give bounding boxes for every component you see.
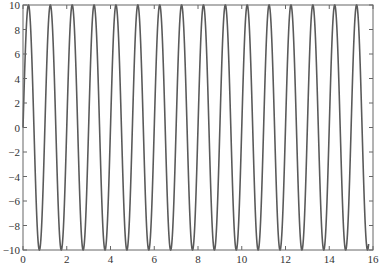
x-tick-label: 4	[108, 253, 114, 265]
line-chart: 0246810121416 −10−8−6−4−20246810	[0, 0, 379, 269]
y-tick-label: −10	[3, 244, 21, 256]
y-tick-label: 10	[9, 0, 21, 11]
x-tick-label: 0	[20, 253, 26, 265]
x-tick-label: 12	[280, 253, 291, 265]
y-tick-label: −6	[8, 195, 20, 207]
y-tick-label: −4	[8, 171, 20, 183]
x-tick-label: 8	[195, 253, 201, 265]
x-tick-label: 6	[152, 253, 158, 265]
x-tick-label: 16	[368, 253, 379, 265]
y-tick-label: 8	[15, 24, 21, 36]
y-tick-label: 6	[15, 48, 21, 60]
y-tick-label: −8	[8, 220, 20, 232]
x-axis-ticks: 0246810121416	[20, 5, 379, 265]
y-tick-label: 0	[15, 122, 21, 134]
x-tick-label: 14	[324, 253, 336, 265]
y-tick-label: −2	[8, 146, 20, 158]
sine-series-line	[23, 5, 369, 250]
series-line	[23, 5, 369, 250]
x-tick-label: 10	[236, 253, 248, 265]
y-tick-label: 2	[15, 97, 21, 109]
x-tick-label: 2	[64, 253, 70, 265]
y-tick-label: 4	[15, 73, 21, 85]
